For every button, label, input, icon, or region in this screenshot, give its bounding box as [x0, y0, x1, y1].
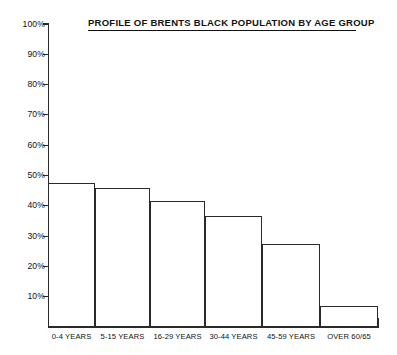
y-axis-tick-label: 70% — [5, 109, 45, 119]
x-axis-category-label: 5-15 YEARS — [95, 332, 150, 341]
x-axis-separator — [95, 318, 96, 328]
bar-chart: PROFILE OF BRENTS BLACK POPULATION BY AG… — [0, 0, 397, 355]
x-axis-category-label: 0-4 YEARS — [48, 332, 95, 341]
x-axis-separator — [378, 318, 379, 328]
x-axis-category-label: 45-59 YEARS — [262, 332, 320, 341]
x-axis-category-label: 30-44 YEARS — [205, 332, 262, 341]
bar — [262, 244, 320, 327]
bar — [48, 183, 95, 327]
x-axis-separator — [320, 318, 321, 328]
x-axis-separator — [205, 318, 206, 328]
x-axis-separator — [262, 318, 263, 328]
x-axis — [48, 327, 378, 328]
x-axis-category-label: 16-29 YEARS — [150, 332, 205, 341]
x-axis-separator — [150, 318, 151, 328]
bar — [205, 216, 262, 327]
y-axis-tick-label: 80% — [5, 79, 45, 89]
bar — [150, 201, 205, 327]
y-axis-tick-label: 30% — [5, 231, 45, 241]
plot-area: 100%90%80%70%60%50%40%30%20%10% 0-4 YEAR… — [0, 0, 397, 355]
y-axis-tick-label: 100% — [5, 19, 45, 29]
y-axis-tick-label: 20% — [5, 261, 45, 271]
y-axis-tick-label: 40% — [5, 200, 45, 210]
y-axis-tick-label: 90% — [5, 49, 45, 59]
bar — [95, 188, 150, 327]
bar — [320, 306, 378, 327]
y-axis-tick-label: 50% — [5, 170, 45, 180]
x-axis-category-label: OVER 60/65 — [320, 332, 378, 341]
y-axis-tick-label: 60% — [5, 140, 45, 150]
y-axis-tick-label: 10% — [5, 291, 45, 301]
